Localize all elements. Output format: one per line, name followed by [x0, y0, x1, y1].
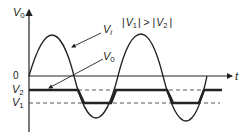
origin-label: 0	[13, 70, 19, 81]
input-waveform-vi	[29, 34, 207, 121]
output-waveform-v0	[29, 90, 222, 103]
v1-level-label: V1	[12, 96, 24, 110]
vi-pointer-arrow	[72, 33, 101, 47]
condition-label: |V1| > |V2|	[122, 16, 172, 30]
v2-level-label: V2	[12, 83, 24, 97]
t-axis-label: t	[235, 70, 239, 82]
vi-curve-label: Vi	[103, 23, 112, 37]
y-axis-label: V0	[13, 6, 25, 20]
clipper-waveform-diagram: V0 t 0 V2 V1 Vi V0 |V1| > |V2|	[0, 0, 244, 138]
v0-curve-label: V0	[103, 50, 115, 64]
